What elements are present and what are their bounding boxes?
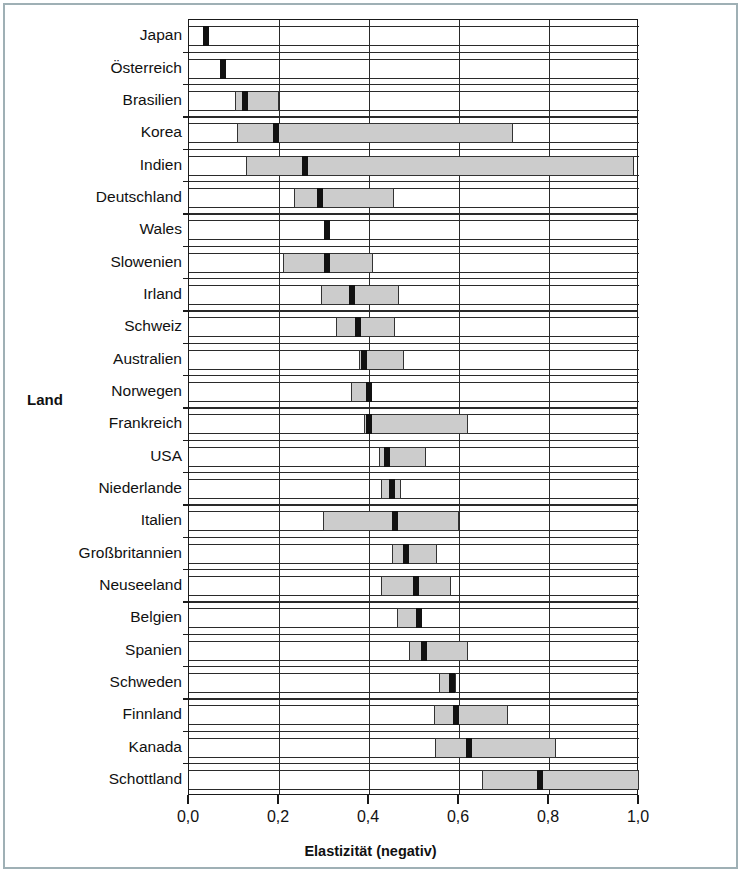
median-marker [302,156,308,176]
row-separator [189,181,637,182]
x-axis-tick-label: 0,2 [267,808,289,826]
row-separator [189,375,637,376]
y-axis-tick [183,407,190,409]
box-range [435,738,556,758]
x-axis-tick [277,795,279,804]
median-marker [384,447,390,467]
median-marker [449,673,455,693]
y-axis-tick [183,310,190,312]
row-separator [189,116,637,117]
whisker-range [189,317,639,337]
median-marker [466,738,472,758]
y-axis-category-label: Finnland [22,706,182,722]
y-axis-tick [183,569,190,571]
y-axis-tick [183,440,190,442]
median-marker [453,705,459,725]
plot-area [188,19,638,795]
y-axis-category-label: Belgien [22,609,182,625]
y-axis-tick [183,666,190,668]
box-range [392,544,437,564]
y-axis-labels: JapanÖsterreichBrasilienKoreaIndienDeuts… [14,19,182,795]
x-axis-tick-label: 0,6 [447,808,469,826]
y-axis-tick [183,278,190,280]
x-axis-tick [367,795,369,804]
y-axis-tick [183,181,190,183]
row-separator [189,537,637,538]
y-axis-category-label: Schottland [22,771,182,787]
row-separator [189,504,637,505]
box-range [482,770,639,790]
row-separator [189,149,637,150]
median-marker [324,220,330,240]
median-marker [324,253,330,273]
row-separator [189,601,637,602]
y-axis-category-label: Frankreich [22,415,182,431]
y-axis-category-label: Slowenien [22,254,182,270]
y-axis-tick [183,116,190,118]
y-axis-category-label: Schweiz [22,318,182,334]
x-axis-tick-label: 0,0 [177,808,199,826]
y-axis-tick [183,537,190,539]
y-axis-category-label: Niederlande [22,480,182,496]
row-separator [189,698,637,699]
box-range [409,641,468,661]
y-axis-tick [183,601,190,603]
row-separator [189,407,637,408]
whisker-range [189,705,639,725]
row-separator [189,634,637,635]
box-range [434,705,509,725]
box-range [323,511,459,531]
median-marker [537,770,543,790]
y-axis-category-label: Wales [22,221,182,237]
x-axis-tick-label: 0,4 [357,808,379,826]
x-axis-tick-label: 1,0 [627,808,649,826]
median-marker [203,26,209,46]
whisker-range [189,188,639,208]
median-marker [403,544,409,564]
y-axis-category-label: Deutschland [22,189,182,205]
y-axis-tick [183,504,190,506]
page-frame: Land JapanÖsterreichBrasilienKoreaIndien… [3,3,738,869]
row-separator [189,213,637,214]
box-range [321,285,399,305]
y-axis-category-label: Korea [22,124,182,140]
row-separator [189,343,637,344]
y-axis-category-label: Japan [22,27,182,43]
x-axis-tick [547,795,549,804]
y-axis-category-label: Kanada [22,739,182,755]
y-axis-category-label: USA [22,448,182,464]
y-axis-tick [183,634,190,636]
y-axis-category-label: Australien [22,351,182,367]
median-marker [392,511,398,531]
whisker-range [189,285,639,305]
row-separator [189,569,637,570]
median-marker [349,285,355,305]
row-separator [189,666,637,667]
y-axis-tick [183,84,190,86]
median-marker [366,414,372,434]
median-marker [355,317,361,337]
y-axis-category-label: Indien [22,157,182,173]
y-axis-tick [183,763,190,765]
whisker-range [189,479,639,499]
median-marker [366,382,372,402]
row-separator [189,731,637,732]
x-axis-tick-label: 0,8 [537,808,559,826]
y-axis-tick [183,343,190,345]
row-separator [189,278,637,279]
x-axis-tick [457,795,459,804]
y-axis-category-label: Italien [22,512,182,528]
median-marker [317,188,323,208]
y-axis-tick [183,375,190,377]
x-axis: 0,00,20,40,60,81,0 [188,795,638,796]
y-axis-category-label: Brasilien [22,92,182,108]
whisker-range [189,673,639,693]
median-marker [389,479,395,499]
row-separator [189,310,637,311]
x-axis-title: Elastizität (negativ) [5,843,736,859]
box-range [294,188,394,208]
whisker-range [189,59,639,79]
whisker-range [189,253,639,273]
y-axis-tick [183,246,190,248]
whisker-range [189,350,639,370]
